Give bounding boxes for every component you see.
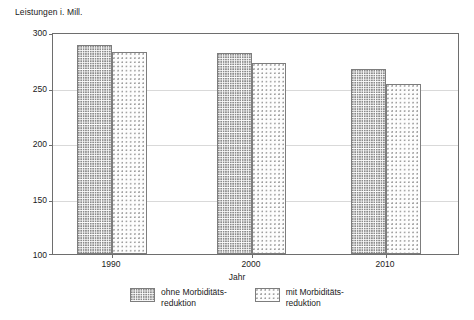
bar-chart: Leistungen i. Mill. 300 250 200 150 100 … [0,0,474,320]
y-tick-100 [49,254,53,255]
bar-2010-ohne [351,69,386,254]
y-tick-label-300: 300 [33,28,47,38]
x-tick-2010 [386,254,387,258]
y-tick-250 [49,90,53,91]
x-tick-label-1990: 1990 [102,259,121,269]
legend-label-ohne: ohne Morbiditäts- reduktion [161,287,227,309]
bar-2010-mit [386,84,421,254]
chart-legend: ohne Morbiditäts- reduktion mit Morbidit… [0,287,474,309]
y-tick-label-150: 150 [33,195,47,205]
legend-item-mit: mit Morbiditäts- reduktion [255,287,344,309]
bar-1990-ohne [77,45,112,254]
y-tick-300 [49,34,53,35]
y-tick-label-100: 100 [33,250,47,260]
legend-swatch-icon-ohne [130,288,155,302]
plot-area [52,33,459,255]
y-tick-200 [49,145,53,146]
legend-swatch-icon-mit [255,288,280,302]
y-tick-150 [49,201,53,202]
y-axis-labels: 300 250 200 150 100 [0,33,47,255]
x-tick-1990 [112,254,113,258]
x-tick-label-2010: 2010 [376,259,395,269]
x-tick-label-2000: 2000 [242,259,261,269]
y-tick-label-200: 200 [33,139,47,149]
bar-1990-mit [112,52,147,254]
legend-item-ohne: ohne Morbiditäts- reduktion [130,287,227,309]
x-tick-2000 [252,254,253,258]
bar-2000-mit [252,63,286,254]
legend-label-mit: mit Morbiditäts- reduktion [286,287,344,309]
y-tick-label-250: 250 [33,84,47,94]
y-axis-title: Leistungen i. Mill. [15,7,83,17]
bar-2000-ohne [217,53,252,254]
x-axis-title: Jahr [0,272,474,282]
